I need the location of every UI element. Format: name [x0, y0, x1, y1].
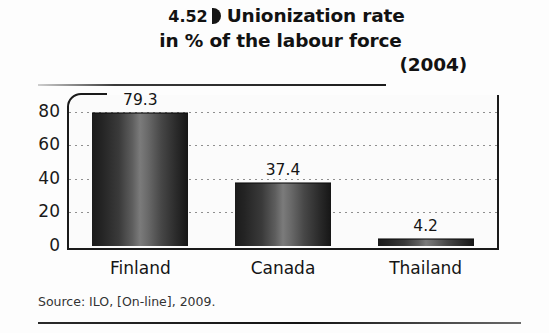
y-tick-label-40: 40: [14, 170, 60, 187]
title-text-line-1: Unionization rate: [227, 5, 405, 26]
figure-page: 4.52Unionization rate in % of the labour…: [0, 0, 549, 333]
title-line-1: 4.52Unionization rate: [0, 4, 531, 29]
bar-chart: 79.337.44.2: [67, 93, 499, 250]
figure-number: 4.52: [168, 7, 207, 26]
bar-top-edge: [235, 182, 331, 184]
bar-fill: [235, 183, 331, 246]
plot-region: 79.337.44.2: [69, 95, 497, 248]
y-tick-label-80: 80: [14, 103, 60, 120]
bar-fill: [378, 239, 474, 246]
y-tick-label-20: 20: [14, 203, 60, 220]
bar-top-edge: [378, 238, 474, 240]
bottom-divider-rule: [38, 322, 521, 324]
title-line-2: in % of the labour force: [0, 29, 531, 53]
category-label-thailand: Thailand: [366, 258, 486, 278]
y-tick-label-60: 60: [14, 136, 60, 153]
category-label-canada: Canada: [223, 258, 343, 278]
value-label-thailand: 4.2: [386, 218, 466, 234]
x-axis-category-labels: FinlandCanadaThailand: [69, 258, 499, 284]
title-line-3: (2004): [0, 53, 531, 77]
y-tick-label-0: 0: [14, 237, 60, 254]
source-note: Source: ILO, [On-line], 2009.: [38, 294, 215, 309]
bar-top-edge: [92, 112, 188, 114]
bar-fill: [92, 113, 188, 246]
bar-finland: [92, 113, 188, 246]
category-label-finland: Finland: [80, 258, 200, 278]
bar-canada: [235, 183, 331, 246]
value-label-finland: 79.3: [100, 92, 180, 108]
value-label-canada: 37.4: [243, 162, 323, 178]
y-axis-tick-labels: 020406080: [10, 93, 60, 250]
bar-thailand: [378, 239, 474, 246]
figure-title-block: 4.52Unionization rate in % of the labour…: [0, 4, 549, 77]
half-disc-marker-icon: [212, 8, 221, 24]
title-divider-rule: [38, 84, 386, 86]
